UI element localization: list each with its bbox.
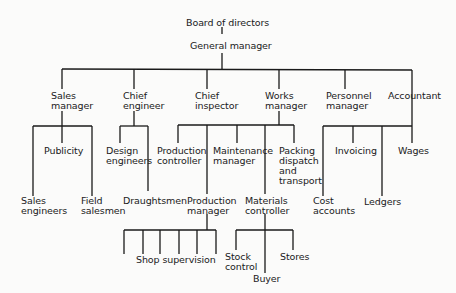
node-sales-manager: Sales manager — [51, 91, 93, 111]
node-accountant: Accountant — [388, 91, 441, 101]
node-publicity: Publicity — [44, 146, 83, 156]
node-packing-dispatch-transport: Packing dispatch and transport — [279, 146, 322, 186]
node-field-salesmen: Field salesmen — [81, 196, 126, 216]
node-text: manager — [326, 101, 372, 111]
node-board-of-directors: Board of directors — [186, 18, 269, 28]
node-general-manager: General manager — [190, 41, 272, 51]
node-draughtsmen: Draughtsmen — [123, 196, 187, 206]
node-design-engineers: Design engineers — [106, 146, 152, 166]
node-stock-control: Stock control — [225, 252, 257, 272]
node-text: salesmen — [81, 206, 126, 216]
node-text: engineers — [106, 156, 152, 166]
node-sales-engineers: Sales engineers — [21, 196, 67, 216]
connector-main-bar — [62, 69, 412, 70]
node-invoicing: Invoicing — [335, 146, 377, 156]
node-works-manager: Works manager — [265, 91, 307, 111]
node-text: engineer — [123, 101, 164, 111]
node-text: manager — [51, 101, 93, 111]
node-maintenance-manager: Maintenance manager — [213, 146, 273, 166]
node-production-manager: Production manager — [187, 196, 237, 216]
node-shop-supervision: Shop supervision — [136, 255, 216, 265]
node-text: manager — [187, 206, 237, 216]
node-chief-engineer: Chief engineer — [123, 91, 164, 111]
node-text: transport — [279, 176, 322, 186]
node-cost-accounts: Cost accounts — [313, 196, 355, 216]
node-buyer: Buyer — [253, 274, 280, 284]
node-text: accounts — [313, 206, 355, 216]
node-stores: Stores — [280, 252, 309, 262]
node-text: controller — [157, 156, 207, 166]
node-chief-inspector: Chief inspector — [195, 91, 238, 111]
node-text: engineers — [21, 206, 67, 216]
node-text: manager — [213, 156, 273, 166]
node-production-controller: Production controller — [157, 146, 207, 166]
node-text: manager — [265, 101, 307, 111]
node-text: controller — [245, 206, 289, 216]
node-text: control — [225, 262, 257, 272]
node-wages: Wages — [398, 146, 429, 156]
node-personnel-manager: Personnel manager — [326, 91, 372, 111]
node-materials-controller: Materials controller — [245, 196, 289, 216]
node-text: inspector — [195, 101, 238, 111]
node-ledgers: Ledgers — [364, 197, 401, 207]
